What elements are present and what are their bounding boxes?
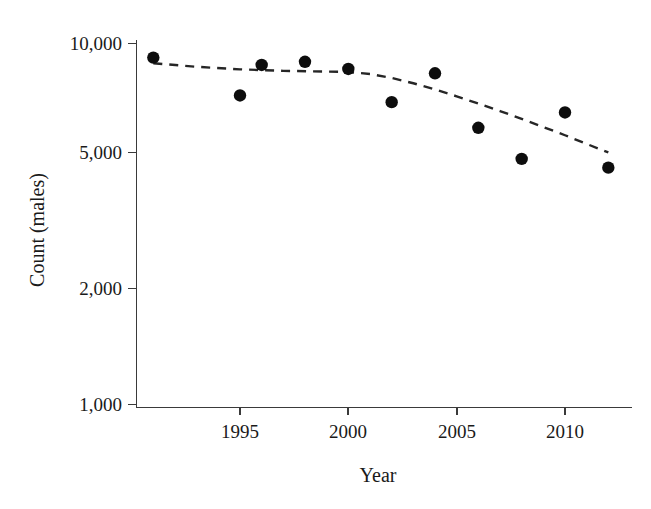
y-tick-label-5000: 5,000 <box>79 142 122 163</box>
data-point <box>147 51 159 63</box>
data-point <box>559 106 571 118</box>
data-point <box>602 161 614 173</box>
data-point <box>234 89 246 101</box>
data-point <box>255 59 267 71</box>
y-tick-label-10000: 10,000 <box>70 33 122 54</box>
x-axis-title: Year <box>360 464 397 486</box>
data-point <box>342 63 354 75</box>
y-tick-label-2000: 2,000 <box>79 278 122 299</box>
y-axis-title: Count (males) <box>26 173 49 287</box>
data-point <box>429 67 441 79</box>
data-point <box>515 153 527 165</box>
scatter-plot-canvas: 10,000 5,000 2,000 1,000 1995 2000 2005 … <box>0 0 651 509</box>
data-point <box>472 122 484 134</box>
y-tick-label-1000: 1,000 <box>79 394 122 415</box>
trend-line <box>153 63 608 152</box>
data-point <box>299 56 311 68</box>
scatter-series <box>147 51 614 173</box>
x-tick-label-1995: 1995 <box>221 421 259 442</box>
x-tick-label-2000: 2000 <box>329 421 367 442</box>
chart-figure: 10,000 5,000 2,000 1,000 1995 2000 2005 … <box>0 0 651 509</box>
x-tick-label-2010: 2010 <box>546 421 584 442</box>
x-tick-label-2005: 2005 <box>438 421 476 442</box>
data-point <box>385 96 397 108</box>
